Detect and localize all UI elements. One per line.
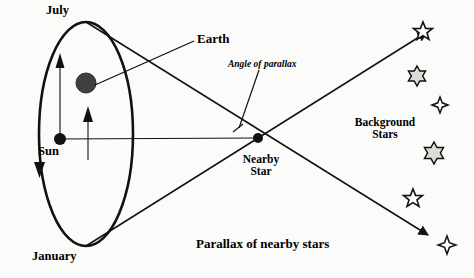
label-nearby-star-line2: Star bbox=[234, 165, 288, 177]
earth-orbit-ellipse bbox=[39, 22, 133, 246]
label-background-stars-line1: Background bbox=[350, 116, 420, 128]
label-january: January bbox=[32, 250, 76, 263]
label-background-stars: Background Stars bbox=[350, 116, 420, 140]
label-nearby-star: Nearby Star bbox=[234, 153, 288, 177]
parallax-diagram-figure: July January Sun Earth Angle of parallax… bbox=[0, 0, 474, 278]
background-star-4pt-upper bbox=[432, 97, 448, 113]
angle-of-parallax-tick bbox=[233, 124, 243, 132]
background-star-4pt-lower bbox=[438, 236, 456, 254]
orbit-axis-arrowhead bbox=[56, 53, 65, 68]
label-july: July bbox=[46, 4, 69, 17]
label-angle-of-parallax: Angle of parallax bbox=[228, 60, 297, 70]
background-star-6pt-filled-lower bbox=[425, 142, 444, 164]
label-background-stars-line2: Stars bbox=[350, 128, 420, 140]
background-star-6pt-filled-upper bbox=[409, 66, 426, 86]
orbit-direction-arrow-right bbox=[83, 106, 93, 122]
label-earth: Earth bbox=[197, 32, 230, 46]
earth-marker bbox=[76, 73, 96, 93]
background-star-5pt-upper bbox=[414, 22, 433, 40]
nearby-star-marker bbox=[253, 133, 263, 143]
label-sun: Sun bbox=[38, 145, 59, 158]
label-nearby-star-line1: Nearby bbox=[234, 153, 288, 165]
background-star-5pt-lower bbox=[404, 189, 423, 207]
figure-caption: Parallax of nearby stars bbox=[196, 237, 329, 251]
angle-of-parallax-leader-line bbox=[239, 70, 259, 128]
earth-leader-line bbox=[95, 41, 194, 85]
